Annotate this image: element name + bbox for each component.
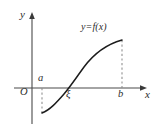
point-b-label: b [118,89,123,100]
arrow-up-icon [29,12,35,19]
function-curve [42,40,122,113]
x-axis-label: x [145,89,150,100]
point-a-label: a [38,73,43,84]
math-figure: y x O a ξ b y=f(x) [0,0,159,129]
origin-label: O [20,87,28,98]
point-xi-label: ξ [66,89,71,100]
function-label: y=f(x) [81,22,107,32]
y-axis-label: y [20,9,25,20]
